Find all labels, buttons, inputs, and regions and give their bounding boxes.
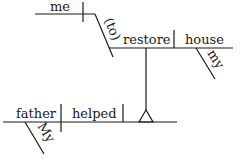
- word-house: house: [185, 32, 224, 47]
- pedestal-triangle: [139, 110, 153, 122]
- sentence-diagram: me (to) restore house my father helped M…: [0, 0, 240, 161]
- word-helped: helped: [72, 106, 117, 121]
- word-me: me: [50, 0, 70, 14]
- word-restore: restore: [123, 32, 171, 47]
- word-father: father: [16, 106, 57, 121]
- word-My: My: [34, 120, 58, 146]
